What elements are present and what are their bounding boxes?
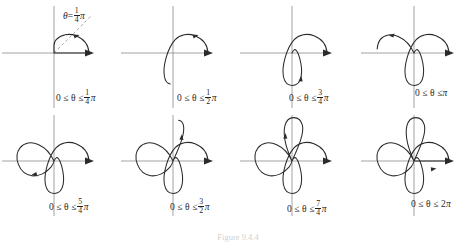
- panel-two-pi: 0 ≤ θ ≤ 2π: [357, 113, 476, 226]
- rose-curve-figure: θ=14π 0 ≤ θ ≤14π 0 ≤ θ ≤12π: [0, 0, 476, 242]
- panel-pi: 0 ≤ θ ≤π: [357, 0, 476, 113]
- range-label-three-quarter-pi: 0 ≤ θ ≤34π: [289, 89, 329, 106]
- rose-curve-arc: [17, 142, 89, 193]
- figure-caption: Figure 9.4.4: [0, 233, 476, 242]
- direction-arrowhead: [389, 34, 395, 38]
- range-label-five-quarter-pi: 0 ≤ θ ≤54π: [49, 198, 89, 215]
- range-label-pi: 0 ≤ θ ≤π: [415, 89, 447, 99]
- panel-five-quarter-pi: 0 ≤ θ ≤54π: [0, 113, 119, 226]
- panel-three-half-pi: 0 ≤ θ ≤32π: [119, 113, 238, 226]
- panel-quarter-pi: θ=14π 0 ≤ θ ≤14π: [0, 0, 119, 113]
- panel-seven-quarter-pi: 0 ≤ θ ≤74π: [238, 113, 357, 226]
- range-label-seven-quarter-pi: 0 ≤ θ ≤74π: [287, 200, 327, 217]
- rose-curve-arc: [255, 118, 327, 194]
- range-label-half-pi: 0 ≤ θ ≤12π: [177, 89, 217, 106]
- panel-three-quarter-pi: 0 ≤ θ ≤34π: [238, 0, 357, 113]
- rose-curve-arc: [54, 34, 89, 53]
- range-label-quarter-pi: 0 ≤ θ ≤14π: [56, 89, 96, 106]
- range-label-two-pi: 0 ≤ θ ≤ 2π: [411, 200, 451, 210]
- rose-curve-arc: [136, 120, 208, 193]
- theta-ray-label: θ=14π: [63, 7, 85, 24]
- panel-grid: θ=14π 0 ≤ θ ≤14π 0 ≤ θ ≤12π: [0, 0, 476, 226]
- direction-arrowhead: [431, 167, 437, 171]
- rose-curve-arc: [377, 34, 449, 85]
- rose-curve-arc: [164, 34, 208, 84]
- panel-half-pi: 0 ≤ θ ≤12π: [119, 0, 238, 113]
- range-label-three-half-pi: 0 ≤ θ ≤32π: [170, 198, 210, 215]
- rose-curve-arc: [377, 118, 449, 194]
- rose-curve-arc: [283, 34, 327, 85]
